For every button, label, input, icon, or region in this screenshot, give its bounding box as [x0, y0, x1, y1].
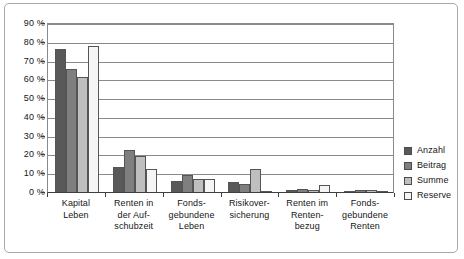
legend-label: Anzahl	[417, 146, 445, 155]
legend: AnzahlBeitragSummeReserve	[404, 143, 460, 203]
y-axis-tick-mark	[41, 98, 45, 99]
legend-item-summe[interactable]: Summe	[404, 173, 460, 188]
y-axis-tick-mark	[41, 136, 45, 137]
x-axis-category-label: Renten imRenten-bezug	[278, 198, 336, 233]
y-axis-tick-label: 10 %	[5, 169, 45, 178]
x-axis-tick-mark	[336, 193, 337, 197]
bar[interactable]	[171, 181, 182, 192]
legend-item-beitrag[interactable]: Beitrag	[404, 158, 460, 173]
chart-figure: 90 %80 %70 %60 %50 %40 %30 %20 %10 %0 % …	[4, 3, 458, 253]
legend-label: Beitrag	[417, 161, 446, 170]
y-axis-tick-mark	[41, 154, 45, 155]
y-axis-tick-mark	[41, 79, 45, 80]
bar[interactable]	[77, 77, 88, 192]
y-axis-tick-label: 50 %	[5, 94, 45, 103]
bar[interactable]	[261, 191, 272, 192]
y-axis-tick-label: 70 %	[5, 56, 45, 65]
bar[interactable]	[344, 191, 355, 192]
bar[interactable]	[182, 175, 193, 192]
bar[interactable]	[204, 179, 215, 192]
bar[interactable]	[319, 185, 330, 192]
y-axis-tick-label: 60 %	[5, 75, 45, 84]
bar[interactable]	[239, 184, 250, 192]
legend-label: Reserve	[417, 191, 451, 200]
legend-label: Summe	[417, 176, 449, 185]
bar-series-container	[48, 24, 393, 192]
x-axis-category-label: Renten inder Auf-schubzeit	[105, 198, 163, 233]
x-axis-label-line: Kapital	[47, 198, 105, 210]
x-axis-label-line: schubzeit	[105, 221, 163, 233]
x-axis-tick-mark	[394, 193, 395, 197]
x-axis-label-line: Renten in	[105, 198, 163, 210]
y-axis-tick-mark	[41, 61, 45, 62]
bar[interactable]	[297, 189, 308, 192]
y-axis-tick-label: 0 %	[5, 188, 45, 197]
bar[interactable]	[366, 190, 377, 192]
bar[interactable]	[55, 49, 66, 192]
bar-group	[106, 24, 164, 192]
y-axis-tick-label: 40 %	[5, 112, 45, 121]
x-axis-label-line: sicherung	[221, 210, 279, 222]
x-axis-label-line: Leben	[163, 221, 221, 233]
x-axis-label-line: bezug	[278, 221, 336, 233]
legend-item-anzahl[interactable]: Anzahl	[404, 143, 460, 158]
plot-area	[47, 23, 394, 193]
x-axis-tick-mark	[278, 193, 279, 197]
legend-swatch-icon	[404, 177, 412, 185]
bar-group	[164, 24, 222, 192]
legend-swatch-icon	[404, 192, 412, 200]
bar[interactable]	[124, 150, 135, 192]
x-axis-category-label: Risikover-sicherung	[221, 198, 279, 221]
bar[interactable]	[355, 190, 366, 192]
x-axis-label-line: Fonds-	[336, 198, 394, 210]
legend-item-reserve[interactable]: Reserve	[404, 188, 460, 203]
bar[interactable]	[308, 190, 319, 192]
x-axis-label-line: gebundene	[163, 210, 221, 222]
bar[interactable]	[113, 167, 124, 192]
x-axis-label-line: Leben	[47, 210, 105, 222]
y-axis-tick-mark	[41, 192, 45, 193]
x-axis-category-label: Fonds-gebundeneLeben	[163, 198, 221, 233]
x-axis-label-line: Renten	[336, 221, 394, 233]
bar-group	[337, 24, 395, 192]
bar[interactable]	[250, 169, 261, 192]
bar[interactable]	[377, 191, 388, 193]
legend-swatch-icon	[404, 162, 412, 170]
x-axis-tick-mark	[105, 193, 106, 197]
bar[interactable]	[286, 190, 297, 192]
bar[interactable]	[88, 46, 99, 192]
bar[interactable]	[228, 182, 239, 193]
y-axis-tick-label: 20 %	[5, 150, 45, 159]
y-axis-tick-mark	[41, 173, 45, 174]
y-axis-tick-mark	[41, 117, 45, 118]
x-axis-label-line: Risikover-	[221, 198, 279, 210]
y-axis-tick-mark	[41, 42, 45, 43]
x-axis-label-line: der Auf-	[105, 210, 163, 222]
x-axis-labels: KapitalLebenRenten inder Auf-schubzeitFo…	[47, 198, 394, 250]
legend-swatch-icon	[404, 147, 412, 155]
x-axis-category-label: KapitalLeben	[47, 198, 105, 221]
bar[interactable]	[66, 69, 77, 192]
bar[interactable]	[135, 156, 146, 192]
x-axis-tick-mark	[47, 193, 48, 197]
x-axis-tick-mark	[163, 193, 164, 197]
y-axis-tick-label: 90 %	[5, 19, 45, 28]
y-axis-tick-label: 80 %	[5, 37, 45, 46]
bar-group	[222, 24, 280, 192]
bar-group	[48, 24, 106, 192]
x-axis-label-line: gebundene	[336, 210, 394, 222]
x-axis-label-line: Renten im	[278, 198, 336, 210]
x-axis-label-line: Renten-	[278, 210, 336, 222]
x-axis-label-line: Fonds-	[163, 198, 221, 210]
y-axis: 90 %80 %70 %60 %50 %40 %30 %20 %10 %0 %	[5, 23, 45, 193]
bar[interactable]	[146, 169, 157, 192]
y-axis-tick-mark	[41, 23, 45, 24]
x-axis-tick-mark	[221, 193, 222, 197]
y-axis-tick-label: 30 %	[5, 131, 45, 140]
x-axis-category-label: Fonds-gebundeneRenten	[336, 198, 394, 233]
bar[interactable]	[193, 179, 204, 192]
bar-group	[279, 24, 337, 192]
